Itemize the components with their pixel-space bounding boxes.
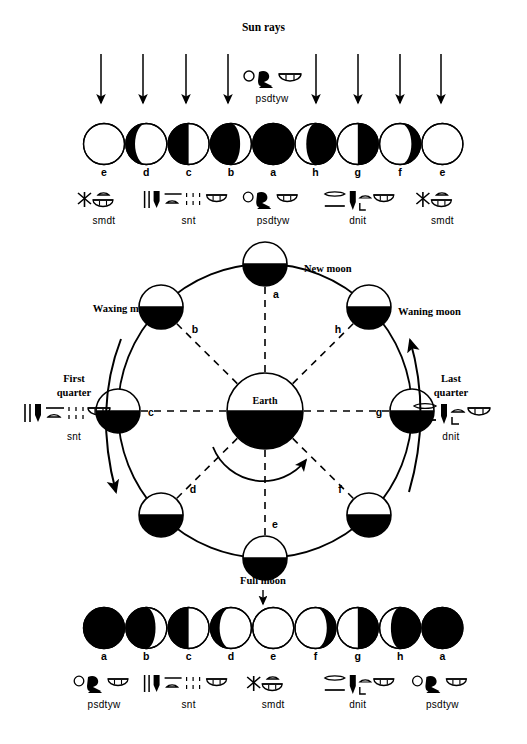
transliteration-psdtyw: psdtyw	[88, 699, 121, 710]
moon-phase-bottom-b-1	[126, 608, 167, 649]
phase-letter-top: h	[312, 166, 318, 178]
moon-phase-bottom-d-3	[210, 608, 251, 649]
orbit-letter-h: h	[335, 323, 341, 335]
figure-canvas: Sun rays psdtyw edcbahgfe smdtsntpsdtywd…	[0, 0, 527, 744]
earth-rotation-arrow	[213, 447, 306, 481]
waning-moon-label: Waning moon	[398, 306, 461, 317]
orbit-letter-f: f	[338, 483, 342, 495]
last-quarter-transliteration: dnit	[442, 431, 459, 442]
phase-letter-bottom: b	[143, 650, 149, 662]
moon-phase-bottom-a-8	[422, 608, 463, 649]
hieroglyph-smdt: smdt	[416, 192, 453, 226]
transliteration-snt: snt	[181, 699, 195, 710]
full-moon-label: Full moon	[240, 575, 286, 586]
phase-letter-bottom: h	[397, 650, 403, 662]
hieroglyph-smdt: smdt	[78, 192, 115, 226]
transliteration-dnit: dnit	[349, 699, 366, 710]
phase-letter-bottom: f	[314, 650, 318, 662]
phase-letter-top: b	[228, 166, 234, 178]
bottom-phase-letters: abcdefgha	[101, 650, 445, 662]
transliteration-smdt: smdt	[93, 215, 116, 226]
hieroglyph-psdtyw: psdtyw	[243, 192, 297, 226]
transliteration-psdtyw: psdtyw	[257, 215, 290, 226]
phase-letter-bottom: a	[101, 650, 107, 662]
last-quarter-label-line1: Last	[441, 373, 461, 384]
moon-phase-top-d-1	[126, 124, 167, 165]
orbit-moon-g	[390, 389, 434, 433]
phase-letter-top: d	[143, 166, 149, 178]
moon-phase-top-f-7	[380, 124, 421, 165]
moon-phases-diagram: Sun rays psdtyw edcbahgfe smdtsntpsdtywd…	[0, 0, 527, 744]
orbit-letter-e: e	[272, 518, 278, 530]
top-phase-row	[84, 124, 463, 165]
transliteration-psdtyw: psdtyw	[426, 699, 459, 710]
bottom-glyph-labels: psdtywsntsmdtdnitpsdtyw	[74, 675, 466, 710]
hieroglyph-smdt: smdt	[247, 676, 284, 710]
hieroglyph-transliteration: psdtyw	[256, 93, 289, 104]
phase-letter-top: a	[270, 166, 276, 178]
moon-phase-top-a-4	[253, 124, 294, 165]
orbit-letter-a: a	[273, 288, 279, 300]
hieroglyph-snt: snt	[145, 191, 227, 226]
hieroglyph-snt: snt	[145, 675, 227, 710]
hieroglyph-psdtyw: psdtyw	[413, 676, 467, 710]
bottom-phase-row	[84, 608, 463, 649]
first-quarter-transliteration: snt	[67, 431, 81, 442]
earth-label: Earth	[253, 395, 278, 406]
hieroglyph-psdtyw-top: psdtyw	[244, 71, 301, 104]
transliteration-smdt: smdt	[431, 215, 454, 226]
moon-phase-bottom-h-7	[380, 608, 421, 649]
figure-title: Sun rays	[242, 21, 286, 34]
moon-phase-bottom-f-5	[295, 608, 336, 649]
moon-phase-top-h-5	[295, 124, 336, 165]
earth: Earth	[227, 373, 303, 449]
orbit-letter-d: d	[190, 483, 196, 495]
moon-phase-top-c-2	[168, 124, 209, 165]
orbit-moon-h	[347, 285, 391, 329]
moon-phase-top-e-0	[84, 124, 125, 165]
first-quarter-label-line1: First	[63, 373, 85, 384]
moon-phase-top-g-6	[337, 124, 378, 165]
orbit-moon-e	[243, 536, 287, 580]
phase-letter-top: e	[439, 166, 445, 178]
waxing-moon-label: Waxing moon	[93, 303, 155, 314]
orbit-moon-f	[347, 493, 391, 537]
hieroglyph-dnit: dnit	[325, 191, 394, 226]
moon-phase-bottom-a-0	[84, 608, 125, 649]
orbit-moon-a	[243, 242, 287, 286]
hieroglyph-psdtyw: psdtyw	[74, 676, 128, 710]
top-glyph-labels: smdtsntpsdtywdnitsmdt	[78, 191, 454, 226]
phase-letter-bottom: e	[270, 650, 276, 662]
phase-letter-bottom: d	[228, 650, 234, 662]
phase-letter-top: g	[355, 166, 361, 178]
last-quarter-label-line2: quarter	[434, 387, 469, 398]
top-phase-letters: edcbahgfe	[101, 166, 445, 178]
hieroglyph-dnit: dnit	[325, 675, 394, 710]
transliteration-snt: snt	[181, 215, 195, 226]
orbit-letter-g: g	[376, 406, 382, 418]
phase-letter-bottom: g	[355, 650, 361, 662]
moon-phase-top-e-8	[422, 124, 463, 165]
phase-letter-bottom: c	[186, 650, 192, 662]
moon-phase-bottom-g-6	[337, 608, 378, 649]
orbit-moon-d	[139, 493, 183, 537]
transliteration-dnit: dnit	[349, 215, 366, 226]
phase-letter-top: f	[398, 166, 402, 178]
new-moon-label: New moon	[304, 263, 352, 274]
first-quarter-label-line2: quarter	[57, 387, 92, 398]
moon-phase-bottom-c-2	[168, 608, 209, 649]
phase-letter-top: e	[101, 166, 107, 178]
moon-phase-bottom-e-4	[253, 608, 294, 649]
phase-letter-bottom: a	[439, 650, 445, 662]
orbit-letter-c: c	[148, 406, 154, 418]
phase-letter-top: c	[186, 166, 192, 178]
transliteration-smdt: smdt	[262, 699, 285, 710]
moon-phase-top-b-3	[210, 124, 251, 165]
orbit-letter-b: b	[192, 323, 198, 335]
